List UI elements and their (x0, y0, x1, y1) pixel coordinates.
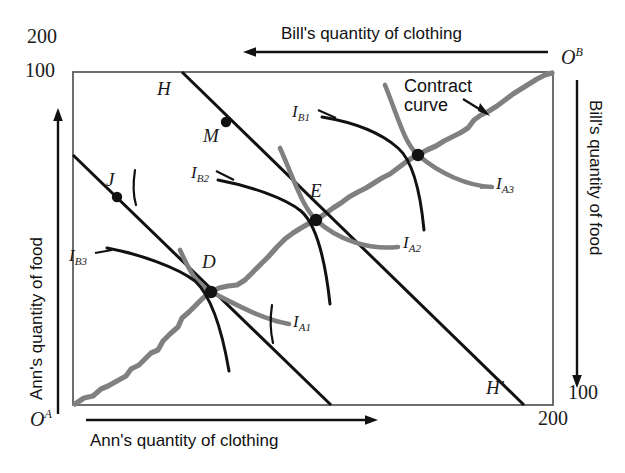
ic-a1-sub: A1 (299, 321, 311, 333)
point-label-m: M (203, 126, 219, 145)
ic-b3-sub: B3 (75, 255, 87, 267)
indifference-curve-b1 (322, 117, 424, 230)
offer-arc-left (134, 170, 136, 205)
axis-title-ann-food: Ann's quantity of food (28, 237, 45, 400)
ic-label-b2: IB2 (191, 164, 209, 184)
ic-label-b3: IB3 (69, 247, 87, 267)
line-label-h: H (157, 79, 171, 98)
ann-food-axis-arrow (53, 108, 63, 414)
contract-curve-annotation: Contract curve (404, 77, 472, 115)
tick-bottom-outer-200: 200 (538, 408, 568, 428)
ic-b2-sub: B2 (197, 172, 209, 184)
tick-top-outer-200: 200 (27, 26, 57, 46)
ann-clothing-axis-arrow (86, 415, 378, 425)
tick-top-inner-100: 100 (25, 60, 55, 80)
offer-arc-mid (271, 305, 273, 343)
point-dot-m (221, 117, 231, 127)
ic-label-a3: IA3 (496, 175, 514, 195)
tick-bottom-inner-100: 100 (568, 382, 598, 402)
point-dot-j (112, 192, 122, 202)
diagram-canvas (0, 0, 625, 473)
bill-food-axis-arrow (572, 80, 582, 388)
point-dot-d (205, 286, 217, 298)
ic-label-a1: IA1 (293, 313, 311, 333)
origin-a-letter: O (30, 408, 44, 430)
ic-a3-sub: A3 (502, 183, 514, 195)
point-dot-upper (412, 149, 424, 161)
ic-label-b1: IB1 (292, 103, 310, 123)
point-label-d: D (202, 252, 216, 271)
axis-title-bill-food: Bill's quantity of food (587, 100, 604, 255)
axis-title-bill-clothing: Bill's quantity of clothing (281, 25, 462, 42)
line-label-h-prime: H' (486, 378, 504, 397)
contract-curve-annotation-line1: Contract (404, 77, 472, 96)
point-dot-e (310, 214, 322, 226)
ic-label-a2: IA2 (403, 234, 421, 254)
leader-ia3 (480, 187, 492, 188)
edgeworth-box-figure: 200 100 100 200 OA OB Ann's quantity of … (0, 0, 625, 473)
price-line-j (73, 155, 331, 405)
ic-b1-sub: B1 (298, 111, 310, 123)
leader-ib3 (95, 250, 112, 253)
origin-a-superscript: A (44, 407, 51, 421)
edgeworth-box-border (73, 72, 553, 405)
bill-clothing-axis-arrow (243, 47, 548, 57)
contract-curve (75, 73, 552, 404)
origin-label-a: OA (30, 408, 52, 429)
point-label-e: E (310, 181, 322, 200)
origin-b-letter: O (561, 46, 575, 68)
axis-title-ann-clothing: Ann's quantity of clothing (90, 432, 278, 449)
origin-b-superscript: B (575, 45, 582, 59)
ic-a2-sub: A2 (409, 242, 421, 254)
point-label-j: J (106, 170, 114, 189)
origin-label-b: OB (561, 46, 583, 67)
contract-curve-annotation-line2: curve (404, 96, 472, 115)
